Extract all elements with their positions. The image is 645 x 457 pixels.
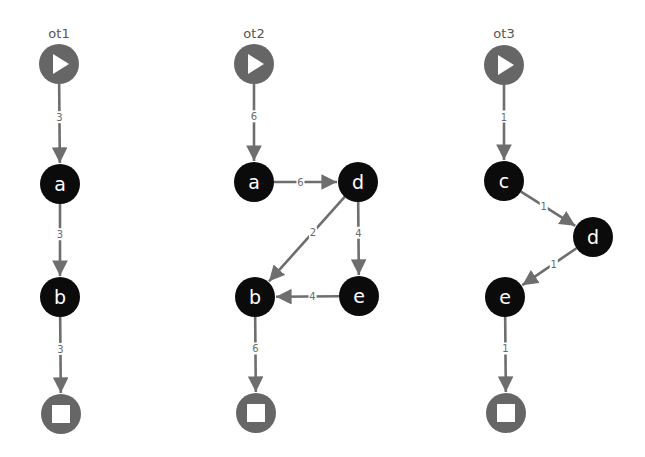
- graph-ot2: ot2662446adeb: [234, 26, 379, 433]
- task-node-d[interactable]: d: [338, 162, 378, 202]
- task-node-label: a: [54, 173, 66, 195]
- edges: 333: [55, 84, 64, 393]
- task-node-b[interactable]: b: [40, 277, 80, 317]
- task-node-label: a: [248, 171, 260, 193]
- start-node[interactable]: [234, 44, 274, 84]
- edge-b-to-end[interactable]: [60, 317, 61, 393]
- task-node-e[interactable]: e: [339, 276, 379, 316]
- stop-icon: [52, 405, 70, 423]
- edge-e-to-b[interactable]: [276, 296, 339, 297]
- edge-weight-label: 3: [57, 344, 63, 355]
- graph-title: ot3: [493, 26, 514, 41]
- edge-start-to-a[interactable]: [59, 84, 60, 163]
- task-node-a[interactable]: a: [40, 164, 80, 204]
- task-node-d[interactable]: d: [573, 217, 613, 257]
- task-node-label: b: [54, 286, 66, 308]
- edge-weight-label: 1: [502, 343, 508, 354]
- edge-weight-label: 4: [309, 291, 315, 302]
- edge-weight-label: 1: [501, 112, 507, 123]
- task-node-label: c: [499, 170, 509, 192]
- stop-icon: [497, 404, 515, 422]
- edge-weight-label: 4: [355, 228, 361, 239]
- edge-weight-label: 1: [551, 259, 557, 270]
- edge-weight-label: 2: [310, 227, 316, 238]
- task-node-label: b: [249, 286, 261, 308]
- end-node[interactable]: [41, 394, 81, 434]
- task-node-a[interactable]: a: [234, 162, 274, 202]
- edge-weight-label: 6: [297, 177, 303, 188]
- edge-c-to-d[interactable]: [521, 192, 575, 226]
- edge-weight-label: 3: [56, 112, 62, 123]
- edge-e-to-end[interactable]: [505, 317, 506, 392]
- stop-icon: [247, 404, 265, 422]
- edge-d-to-e[interactable]: [522, 248, 576, 285]
- task-node-label: d: [352, 171, 364, 193]
- task-node-label: d: [587, 226, 599, 248]
- edge-weight-label: 6: [252, 343, 258, 354]
- task-node-label: e: [353, 285, 365, 307]
- edge-weight-label: 1: [541, 201, 547, 212]
- start-node[interactable]: [484, 45, 524, 85]
- graphs-root: ot1333abot2662446adebot31111cde: [39, 26, 613, 434]
- edge-weight-label: 3: [57, 229, 63, 240]
- end-node[interactable]: [486, 393, 526, 433]
- graph-ot3: ot31111cde: [484, 26, 613, 433]
- task-node-label: e: [499, 286, 511, 308]
- graph-title: ot1: [48, 26, 69, 41]
- graph-ot1: ot1333ab: [39, 26, 81, 434]
- edges: 662446: [250, 84, 362, 392]
- task-node-b[interactable]: b: [235, 277, 275, 317]
- end-node[interactable]: [236, 393, 276, 433]
- edge-weight-label: 6: [251, 111, 257, 122]
- task-node-e[interactable]: e: [485, 277, 525, 317]
- edges: 1111: [500, 85, 576, 392]
- edge-d-to-b[interactable]: [269, 197, 345, 281]
- edge-b-to-end[interactable]: [255, 317, 256, 392]
- start-node[interactable]: [39, 44, 79, 84]
- process-graphs-canvas: ot1333abot2662446adebot31111cde: [0, 0, 645, 457]
- graph-title: ot2: [243, 26, 264, 41]
- task-node-c[interactable]: c: [484, 161, 524, 201]
